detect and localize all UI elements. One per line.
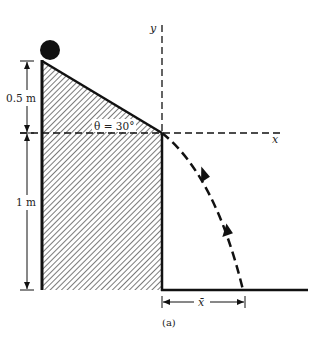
arrow-up-icon [24, 62, 30, 69]
ball [40, 40, 60, 60]
trajectory [162, 133, 243, 290]
arrow-right-icon [237, 299, 244, 305]
arrow-down-icon [24, 282, 30, 289]
distance-label: x̄ [198, 296, 205, 309]
arrow-down-icon [24, 125, 30, 132]
height-label-bottom: 1 m [16, 196, 36, 208]
figure-caption: (a) [162, 317, 176, 328]
angle-label: θ = 30° [94, 120, 134, 132]
projectile-diagram: y x θ = 30° 0.5 m 1 m x̄ (a) [0, 0, 318, 342]
arrow-left-icon [163, 299, 170, 305]
arrow-up-icon [24, 134, 30, 141]
y-axis-label: y [149, 22, 157, 35]
x-axis-label: x [272, 133, 279, 146]
height-label-top: 0.5 m [6, 92, 36, 104]
